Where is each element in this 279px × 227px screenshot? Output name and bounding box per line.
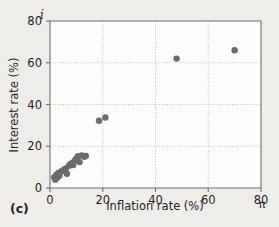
y-tick-label: 20	[27, 139, 42, 153]
x-axis-label: Inflation rate (%)	[106, 199, 204, 213]
scatter-plot: 020406080 020406080 Inflation rate (%) I…	[0, 0, 279, 227]
data-point	[231, 47, 237, 53]
data-point	[96, 118, 102, 124]
y-tick-label: 60	[27, 56, 42, 70]
x-tick-label: 0	[46, 193, 53, 207]
y-axis-label: Interest rate (%)	[7, 58, 21, 153]
data-point	[102, 114, 108, 120]
panel-label: (c)	[10, 201, 29, 216]
x-axis-symbol: π	[259, 198, 266, 211]
data-point	[64, 171, 70, 177]
y-tick-label: 40	[27, 98, 42, 112]
y-tick-labels-group: 020406080	[27, 14, 42, 195]
y-axis-symbol: i	[40, 8, 44, 22]
data-point	[173, 55, 179, 61]
data-point	[83, 153, 89, 159]
figure-panel-c: 020406080 020406080 Inflation rate (%) I…	[0, 0, 279, 227]
y-tick-label: 0	[35, 181, 42, 195]
data-point	[76, 159, 82, 165]
